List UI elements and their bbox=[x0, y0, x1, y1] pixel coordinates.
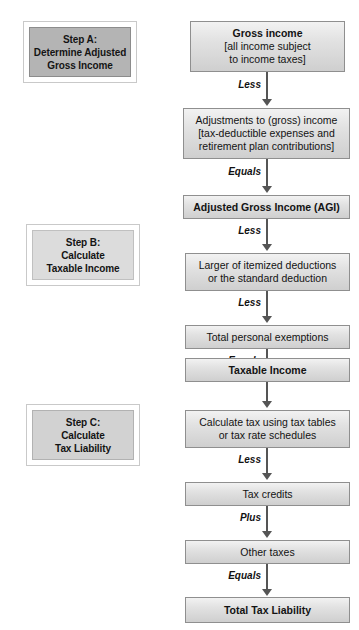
flow-node-gross-income-line-1: Gross income bbox=[232, 27, 302, 40]
flow-node-calculate-tax-line-1: Calculate tax using tax tables bbox=[199, 416, 336, 429]
flow-node-gross-income-line-3: to income taxes] bbox=[229, 53, 305, 66]
connector-gross-to-adjustments bbox=[266, 72, 268, 102]
flow-node-calculate-tax-line-2: or tax rate schedules bbox=[219, 429, 316, 442]
connector-agi-to-deductions-arrowhead bbox=[262, 244, 272, 251]
step-marker-c: Step C: Calculate Tax Liability bbox=[26, 404, 140, 466]
connector-gross-to-adjustments-arrowhead bbox=[262, 99, 272, 106]
connector-deductions-to-exemptions bbox=[266, 291, 268, 319]
connector-calculate-tax-to-tax-credits-label: Less bbox=[213, 454, 261, 465]
flow-node-agi-line-1: Adjusted Gross Income (AGI) bbox=[193, 201, 339, 214]
flow-node-exemptions: Total personal exemptions bbox=[185, 325, 350, 349]
flow-node-other-taxes-line-1: Other taxes bbox=[240, 546, 294, 559]
flow-node-deductions: Larger of itemized deductions or the sta… bbox=[185, 253, 350, 291]
flow-node-deductions-line-1: Larger of itemized deductions bbox=[199, 259, 337, 272]
flow-node-adjustments: Adjustments to (gross) income [tax-deduc… bbox=[183, 108, 350, 159]
connector-agi-to-deductions bbox=[266, 219, 268, 247]
flow-node-adjustments-line-1: Adjustments to (gross) income bbox=[196, 114, 338, 127]
flow-node-calculate-tax: Calculate tax using tax tables or tax ra… bbox=[185, 410, 350, 448]
connector-tax-credits-to-other-taxes bbox=[266, 506, 268, 534]
flow-node-other-taxes: Other taxes bbox=[185, 540, 350, 564]
connector-taxable-income-to-calculate-tax-arrowhead bbox=[262, 401, 272, 408]
step-marker-b-body: Step B: Calculate Taxable Income bbox=[32, 230, 134, 280]
step-marker-b-line-1: Step B: bbox=[66, 236, 100, 249]
step-marker-b-line-2: Calculate bbox=[61, 249, 105, 262]
connector-calculate-tax-to-tax-credits bbox=[266, 448, 268, 476]
flow-node-agi: Adjusted Gross Income (AGI) bbox=[183, 195, 350, 219]
step-marker-a-line-1: Step A: bbox=[63, 33, 97, 46]
step-marker-c-body: Step C: Calculate Tax Liability bbox=[32, 410, 134, 460]
flow-node-taxable-income-line-1: Taxable Income bbox=[228, 364, 306, 377]
flow-node-exemptions-line-1: Total personal exemptions bbox=[207, 331, 329, 344]
connector-tax-credits-to-other-taxes-label: Plus bbox=[213, 512, 261, 523]
step-marker-a-body: Step A: Determine Adjusted Gross Income bbox=[29, 27, 131, 77]
connector-other-taxes-to-total-tax-liability-arrowhead bbox=[262, 589, 272, 596]
connector-other-taxes-to-total-tax-liability bbox=[266, 564, 268, 592]
flow-node-tax-credits: Tax credits bbox=[185, 482, 350, 506]
step-marker-b: Step B: Calculate Taxable Income bbox=[26, 224, 140, 286]
step-marker-b-line-3: Taxable Income bbox=[47, 262, 120, 275]
flowchart-canvas: Step A: Determine Adjusted Gross Income … bbox=[0, 0, 359, 630]
connector-agi-to-deductions-label: Less bbox=[213, 225, 261, 236]
flow-node-adjustments-line-3: retirement plan contributions] bbox=[199, 140, 334, 153]
flow-node-tax-credits-line-1: Tax credits bbox=[242, 488, 292, 501]
flow-node-deductions-line-2: or the standard deduction bbox=[208, 272, 327, 285]
step-marker-c-line-2: Calculate bbox=[61, 429, 105, 442]
connector-deductions-to-exemptions-arrowhead bbox=[262, 316, 272, 323]
connector-tax-credits-to-other-taxes-arrowhead bbox=[262, 531, 272, 538]
flow-node-gross-income-line-2: [all income subject bbox=[224, 40, 310, 53]
connector-adjustments-to-agi-label: Equals bbox=[203, 166, 261, 177]
connector-other-taxes-to-total-tax-liability-label: Equals bbox=[203, 570, 261, 581]
connector-adjustments-to-agi bbox=[266, 159, 268, 189]
flow-node-total-tax-liability: Total Tax Liability bbox=[185, 597, 350, 623]
step-marker-a-line-3: Gross Income bbox=[47, 59, 113, 72]
flow-node-gross-income: Gross income [all income subject to inco… bbox=[190, 21, 345, 72]
connector-deductions-to-exemptions-label: Less bbox=[213, 297, 261, 308]
step-marker-a-line-2: Determine Adjusted bbox=[34, 46, 126, 59]
connector-calculate-tax-to-tax-credits-arrowhead bbox=[262, 473, 272, 480]
flow-node-adjustments-line-2: [tax-deductible expenses and bbox=[198, 127, 335, 140]
step-marker-a: Step A: Determine Adjusted Gross Income bbox=[23, 21, 137, 83]
connector-gross-to-adjustments-label: Less bbox=[213, 79, 261, 90]
flow-node-total-tax-liability-line-1: Total Tax Liability bbox=[224, 604, 311, 617]
flow-node-taxable-income: Taxable Income bbox=[185, 358, 350, 382]
step-marker-c-line-3: Tax Liability bbox=[55, 442, 111, 455]
step-marker-c-line-1: Step C: bbox=[66, 416, 100, 429]
connector-adjustments-to-agi-arrowhead bbox=[262, 186, 272, 193]
